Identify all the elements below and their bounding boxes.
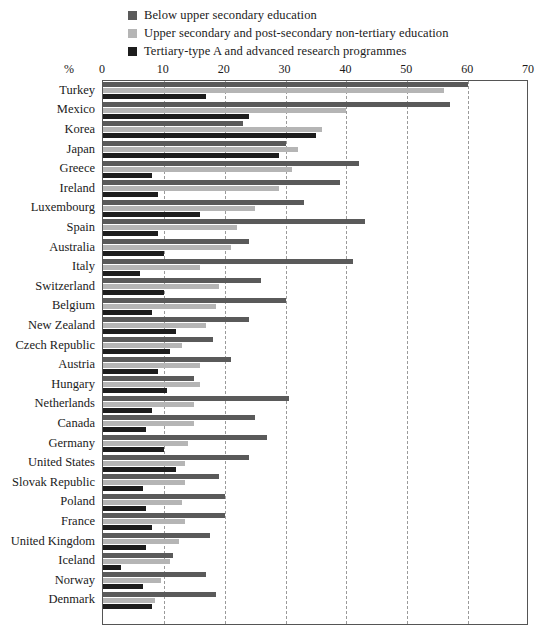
bar-segment (103, 251, 164, 256)
x-axis-tick: 50 (400, 62, 412, 77)
bar-segment (103, 290, 164, 295)
bar-row (103, 453, 527, 473)
bar-segment (103, 565, 121, 570)
bar-segment (103, 467, 176, 472)
category-label: Korea (64, 123, 95, 136)
bar-row (103, 238, 527, 258)
bar-segment (103, 265, 200, 270)
bar-segment (103, 317, 249, 322)
bar-segment (103, 141, 286, 146)
bar-segment (103, 206, 255, 211)
bar-segment (103, 133, 316, 138)
bar-segment (103, 545, 146, 550)
bar-segment (103, 167, 292, 172)
bar-segment (103, 102, 450, 107)
bar-row (103, 218, 527, 238)
bar-segment (103, 598, 155, 603)
bar-segment (103, 180, 340, 185)
bar-segment (103, 435, 267, 440)
bar-row (103, 512, 527, 532)
legend-item-label: Upper secondary and post-secondary non-t… (144, 27, 449, 40)
bar-segment (103, 310, 152, 315)
bar-segment (103, 357, 231, 362)
bar-segment (103, 461, 185, 466)
chart-legend: Below upper secondary education Upper se… (128, 8, 449, 59)
bar-row (103, 473, 527, 493)
x-axis-tick: 60 (461, 62, 473, 77)
bar-segment (103, 212, 200, 217)
bar-segment (103, 337, 213, 342)
legend-item-upper-secondary: Upper secondary and post-secondary non-t… (128, 26, 449, 41)
category-label: Czech Republic (16, 338, 96, 351)
bar-segment (103, 245, 231, 250)
bar-row (103, 81, 527, 101)
legend-swatch-icon (128, 29, 137, 38)
bar-segment (103, 343, 182, 348)
bar-segment (103, 553, 173, 558)
category-label: Poland (60, 495, 95, 508)
category-label: Ireland (60, 181, 95, 194)
bar-segment (103, 500, 182, 505)
bar-segment (103, 284, 219, 289)
bar-segment (103, 480, 185, 485)
category-label: United Kingdom (11, 534, 95, 547)
category-label: Luxembourg (31, 201, 95, 214)
bar-segment (103, 329, 176, 334)
x-axis-tick: 10 (157, 62, 169, 77)
bar-segment (103, 486, 143, 491)
bar-row (103, 571, 527, 591)
bar-segment (103, 513, 225, 518)
bar-segment (103, 349, 170, 354)
legend-swatch-icon (128, 11, 137, 20)
bar-segment (103, 415, 255, 420)
bar-segment (103, 494, 225, 499)
bar-row (103, 159, 527, 179)
bar-segment (103, 153, 279, 158)
bar-row (103, 551, 527, 571)
bar-segment (103, 519, 185, 524)
bar-row (103, 179, 527, 199)
bar-segment (103, 474, 219, 479)
category-label: Turkey (59, 83, 95, 96)
bar-segment (103, 559, 170, 564)
category-label: Slovak Republic (12, 475, 95, 488)
bar-segment (103, 192, 158, 197)
category-label: Italy (72, 260, 95, 273)
category-label: Netherlands (35, 397, 95, 410)
category-label: Hungary (51, 377, 95, 390)
bar-segment (103, 525, 152, 530)
bar-segment (103, 592, 216, 597)
category-label: Australia (49, 240, 95, 253)
category-label: United States (28, 456, 95, 469)
legend-item-tertiary-type-a: Tertiary-type A and advanced research pr… (128, 44, 449, 59)
category-label: Austria (58, 358, 95, 371)
bar-row (103, 375, 527, 395)
legend-item-below-upper-secondary: Below upper secondary education (128, 8, 449, 23)
bar-row (103, 277, 527, 297)
category-label: Iceland (58, 554, 95, 567)
category-label: Mexico (57, 103, 95, 116)
category-label: Germany (48, 436, 95, 449)
bar-segment (103, 376, 194, 381)
bar-row (103, 199, 527, 219)
chart-figure: Below upper secondary education Upper se… (0, 0, 556, 625)
bar-segment (103, 604, 152, 609)
bar-segment (103, 421, 194, 426)
bar-segment (103, 239, 249, 244)
bar-segment (103, 88, 444, 93)
bar-segment (103, 441, 188, 446)
bar-segment (103, 427, 146, 432)
bar-segment (103, 161, 359, 166)
bar-segment (103, 225, 237, 230)
bar-segment (103, 173, 152, 178)
bar-segment (103, 108, 346, 113)
bar-segment (103, 186, 279, 191)
plot-area (102, 80, 528, 625)
legend-item-label: Tertiary-type A and advanced research pr… (144, 45, 407, 58)
category-label: Denmark (48, 593, 95, 606)
legend-item-label: Below upper secondary education (144, 9, 317, 22)
category-label: Spain (67, 221, 95, 234)
bar-segment (103, 304, 216, 309)
bar-row (103, 336, 527, 356)
x-axis-tick: 40 (339, 62, 351, 77)
